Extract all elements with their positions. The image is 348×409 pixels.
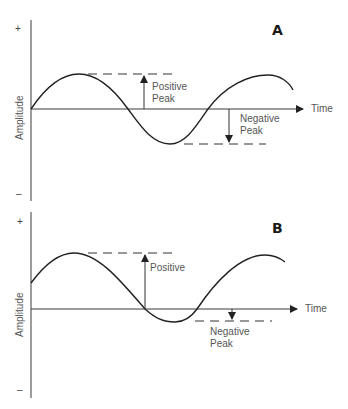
panel-b-label: B	[272, 220, 283, 236]
x-axis-label-b: Time	[305, 303, 327, 314]
minus-sign-a: –	[16, 188, 22, 199]
panel-a-label: A	[272, 22, 283, 38]
panel-a: A + – Amplitude Time Positive Peak Negat…	[14, 20, 333, 201]
waveform-diagram: A + – Amplitude Time Positive Peak Negat…	[0, 0, 348, 409]
negative-peak-label-a-line1: Negative	[240, 113, 280, 124]
positive-peak-label-a-line1: Positive	[152, 81, 187, 92]
panel-b: B + – Amplitude Time Positive Negative P…	[14, 212, 327, 398]
plus-sign-a: +	[15, 23, 21, 34]
y-axis-label-a: Amplitude	[14, 95, 25, 140]
minus-sign-b: –	[17, 384, 23, 395]
positive-peak-label-a-line2: Peak	[152, 93, 176, 104]
x-axis-label-a: Time	[311, 103, 333, 114]
negative-peak-label-b-line1: Negative	[210, 326, 250, 337]
plus-sign-b: +	[17, 216, 23, 227]
y-axis-label-b: Amplitude	[14, 292, 25, 337]
negative-peak-label-b-line2: Peak	[210, 338, 234, 349]
positive-peak-label-b: Positive	[150, 262, 185, 273]
negative-peak-label-a-line2: Peak	[240, 125, 264, 136]
